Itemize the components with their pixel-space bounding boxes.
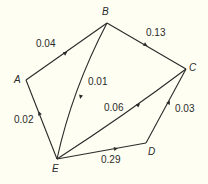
weight-b-c: 0.13	[146, 27, 165, 38]
edge-a-b	[26, 23, 107, 80]
node-label-c: C	[189, 62, 196, 73]
graph-diagram: B C A D E 0.04 0.13 0.01 0.06 0.03 0.02 …	[0, 0, 208, 184]
weight-a-b: 0.04	[36, 38, 55, 49]
arrow-e-a-icon	[37, 111, 42, 116]
node-label-e: E	[52, 163, 59, 174]
weight-e-a: 0.02	[14, 114, 33, 125]
edge-b-e	[57, 23, 107, 159]
node-label-a: A	[14, 74, 21, 85]
weight-d-c: 0.03	[175, 103, 194, 114]
weight-b-e: 0.01	[88, 76, 107, 87]
node-label-b: B	[102, 6, 109, 17]
arrow-b-e-icon	[78, 95, 83, 100]
node-label-d: D	[148, 146, 155, 157]
weight-e-d: 0.29	[101, 154, 120, 165]
edge-e-c	[57, 69, 186, 159]
weight-e-c: 0.06	[104, 102, 123, 113]
